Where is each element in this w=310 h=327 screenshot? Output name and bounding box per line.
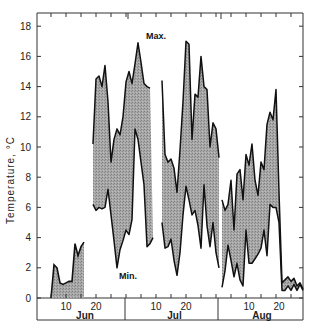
- y-tick-label: 10: [20, 142, 32, 153]
- month-label: Aug: [252, 310, 271, 321]
- temperature-chart: 0246810121416181020Jun1020Jul1020Aug Tem…: [0, 0, 310, 327]
- temperature-band: [222, 90, 303, 291]
- day-tick-label: 20: [273, 301, 285, 312]
- min-annotation: Min.: [119, 271, 137, 281]
- y-tick-label: 4: [25, 232, 31, 243]
- max-annotation: Max.: [146, 31, 166, 41]
- day-tick-label: 10: [60, 301, 72, 312]
- month-label: Jun: [76, 310, 94, 321]
- y-tick-label: 18: [20, 21, 32, 32]
- day-tick-label: 20: [180, 301, 192, 312]
- y-tick-label: 2: [25, 262, 31, 273]
- y-axis-label: Temperature, °C: [5, 136, 16, 224]
- y-tick-label: 12: [20, 111, 32, 122]
- y-tick-label: 6: [25, 202, 31, 213]
- y-tick-label: 0: [25, 293, 31, 304]
- day-tick-label: 10: [150, 301, 162, 312]
- y-tick-label: 14: [20, 81, 32, 92]
- temperature-band: [93, 43, 153, 268]
- y-tick-label: 16: [20, 51, 32, 62]
- series-layer: [51, 41, 303, 298]
- y-tick-label: 8: [25, 172, 31, 183]
- month-label: Jul: [167, 310, 182, 321]
